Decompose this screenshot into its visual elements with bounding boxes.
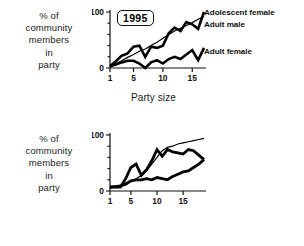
x-tick-label: 15 [188, 73, 198, 83]
x-tick-label: 1 [108, 73, 113, 83]
y-tick-label: 0 [99, 63, 104, 73]
y-caption-line: members [6, 157, 92, 169]
figure-root: % of community members in party 10001510… [0, 0, 304, 246]
x-tick-label: 15 [178, 196, 188, 206]
plot-area-1996: 1000151015 [92, 127, 210, 213]
x-tick-label: 10 [152, 196, 162, 206]
y-caption-line: members [6, 34, 92, 46]
series-line-adult-female [110, 160, 204, 188]
y-axis-caption-1995: % of community members in party [6, 10, 92, 71]
x-tick-label: 10 [158, 73, 168, 83]
y-caption-line: % of [6, 133, 92, 145]
y-caption-line: party [6, 182, 92, 194]
y-tick-label: 100 [92, 7, 104, 17]
series-label-adolescent-female: Adolescent female [204, 8, 275, 17]
x-tick-label: 5 [129, 196, 134, 206]
x-tick-label: 1 [108, 196, 113, 206]
y-tick-label: 100 [92, 130, 104, 140]
y-caption-line: community [6, 145, 92, 157]
x-tick-label: 5 [131, 73, 136, 83]
year-badge-1995: 1995 [117, 10, 154, 26]
y-caption-line: % of [6, 10, 92, 22]
x-axis-caption-1995: Party size [131, 92, 176, 103]
chart-panel-1996: % of community members in party 10001510… [0, 123, 304, 246]
y-tick-label: 0 [99, 186, 104, 196]
y-caption-line: party [6, 59, 92, 71]
series-line-adult-female [110, 48, 204, 68]
y-axis-caption-1996: % of community members in party [6, 133, 92, 194]
y-caption-line: in [6, 47, 92, 59]
series-label-adult-female: Adult female [204, 47, 252, 56]
series-label-adult-male: Adult male [204, 20, 245, 29]
y-caption-line: in [6, 170, 92, 182]
chart-panel-1995: % of community members in party 10001510… [0, 0, 304, 123]
y-caption-line: community [6, 22, 92, 34]
